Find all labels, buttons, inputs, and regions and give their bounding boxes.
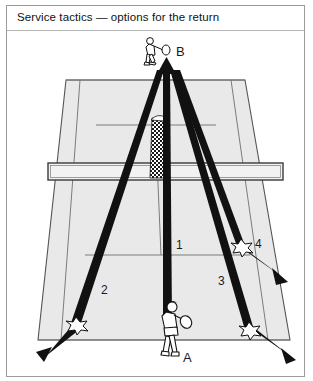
figure-service-tactics: Service tactics — options for the return	[0, 0, 313, 381]
return-option-1-label: 1	[176, 238, 183, 252]
player-b-label: B	[176, 44, 185, 59]
player-a-label: A	[183, 350, 192, 365]
court-diagram	[0, 0, 313, 381]
return-option-2-label: 2	[101, 283, 108, 297]
return-option-4-label: 4	[255, 237, 262, 251]
return-option-3-label: 3	[218, 274, 225, 288]
